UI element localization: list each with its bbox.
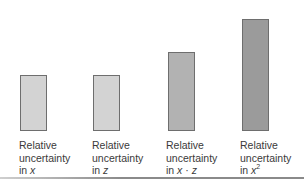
- label-x: Relative uncertainty in x: [19, 139, 99, 177]
- label-line: uncertainty: [166, 152, 246, 165]
- label-line: in x · z: [166, 164, 246, 177]
- label-line: uncertainty: [240, 152, 304, 165]
- label-line: Relative: [92, 139, 172, 152]
- label-x-squared: Relative uncertainty in x2: [240, 139, 304, 177]
- label-line: uncertainty: [92, 152, 172, 165]
- variable: z: [103, 164, 108, 176]
- bar-z: [93, 75, 120, 131]
- label-x-times-z: Relative uncertainty in x · z: [166, 139, 246, 177]
- variable: z: [192, 164, 197, 176]
- label-line: Relative: [240, 139, 304, 152]
- label-line: Relative: [166, 139, 246, 152]
- bar-x-squared: [242, 19, 269, 131]
- label-line: in z: [92, 164, 172, 177]
- label-line: Relative: [19, 139, 99, 152]
- label-line: in x: [19, 164, 99, 177]
- bar-x-times-z: [168, 52, 195, 131]
- exponent: 2: [256, 163, 260, 170]
- operator: ·: [182, 164, 191, 176]
- bottom-rule: [0, 177, 304, 179]
- label-prefix: in: [166, 164, 177, 176]
- label-line: in x2: [240, 164, 304, 177]
- variable: x: [30, 164, 35, 176]
- label-prefix: in: [240, 164, 251, 176]
- label-line: uncertainty: [19, 152, 99, 165]
- label-prefix: in: [19, 164, 30, 176]
- label-prefix: in: [92, 164, 103, 176]
- label-z: Relative uncertainty in z: [92, 139, 172, 177]
- bar-x: [20, 75, 47, 131]
